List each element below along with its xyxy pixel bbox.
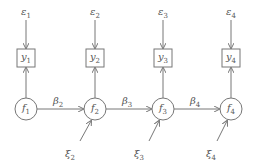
- label-epsilon-3: ε3: [158, 6, 168, 20]
- label-y3: y3: [158, 51, 168, 65]
- label-beta-3: β3: [122, 95, 132, 109]
- label-xi-2: ξ2: [65, 148, 75, 162]
- label-xi-4: ξ4: [206, 148, 216, 162]
- path-diagram: ε1 ε2 ε3 ε4 y1 y2 y3 y4 f1 f2 f3 f4 β2 β…: [0, 0, 255, 167]
- label-f3: f3: [159, 102, 167, 116]
- edge-xi3-f3: [149, 121, 159, 141]
- label-epsilon-4: ε4: [226, 6, 236, 20]
- label-f2: f2: [91, 102, 99, 116]
- label-y1: y1: [21, 51, 31, 65]
- diagram-edges: [0, 0, 255, 167]
- label-f4: f4: [227, 102, 235, 116]
- label-y2: y2: [90, 51, 100, 65]
- label-beta-2: β2: [53, 95, 63, 109]
- label-epsilon-2: ε2: [90, 6, 100, 20]
- label-beta-4: β4: [190, 95, 200, 109]
- label-epsilon-1: ε1: [21, 6, 31, 20]
- label-xi-3: ξ3: [134, 148, 144, 162]
- edge-xi4-f4: [217, 121, 227, 141]
- label-f1: f1: [22, 102, 30, 116]
- edge-xi2-f2: [80, 121, 91, 141]
- label-y4: y4: [226, 51, 236, 65]
